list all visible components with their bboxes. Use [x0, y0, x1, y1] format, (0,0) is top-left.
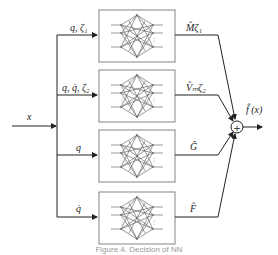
branch-2: q, q̇, ζ₂ V̂ₘζ₂	[57, 70, 233, 122]
branch-1-output-label: M̂ζ₁	[185, 21, 202, 34]
figure-caption: Figure 4. Decision of NN	[95, 245, 182, 254]
branch-2-input-label: q, q̇, ζ₂	[62, 82, 90, 94]
branch-3: q Ĝ	[57, 130, 233, 182]
branch-3-output-label: Ĝ	[190, 141, 197, 152]
sum-symbol: +	[233, 123, 241, 133]
branch-1-input-label: q, ζ₁	[70, 22, 88, 34]
output-label: f̂ (x)	[246, 103, 263, 116]
input-label: x	[26, 111, 32, 122]
branch-4-input-label: q̇	[76, 203, 81, 214]
nn-block-diagram: ⋮ ⋮ x q, ζ₁ M̂ζ₁ q, q̇, ζ₂ V̂ₘζ₂ q Ĝ	[0, 0, 278, 255]
branch-4-output-label: F̂	[189, 202, 197, 214]
branch-3-input-label: q	[76, 142, 81, 153]
branch-2-output-label: V̂ₘζ₂	[186, 81, 206, 94]
